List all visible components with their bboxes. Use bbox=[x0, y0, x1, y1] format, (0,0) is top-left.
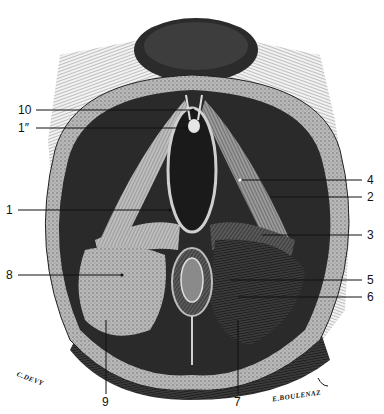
label-10: 10 bbox=[18, 104, 31, 116]
label-1-double-prime: 1″ bbox=[18, 122, 29, 134]
label-5: 5 bbox=[367, 274, 374, 286]
label-4: 4 bbox=[367, 174, 374, 186]
label-3: 3 bbox=[367, 229, 374, 241]
label-2: 2 bbox=[367, 191, 374, 203]
clitoris bbox=[188, 119, 200, 133]
label-9: 9 bbox=[102, 396, 109, 408]
label-7: 7 bbox=[234, 396, 241, 408]
left-fat-pad bbox=[79, 246, 167, 336]
anus bbox=[181, 258, 203, 302]
engraving-illustration bbox=[0, 0, 384, 414]
anatomical-figure: 10 1″ 1 8 9 4 2 3 5 6 7 C.DEVY E.BOULENA… bbox=[0, 0, 384, 414]
label-1: 1 bbox=[6, 204, 13, 216]
label-8: 8 bbox=[6, 269, 13, 281]
label-6: 6 bbox=[367, 291, 374, 303]
